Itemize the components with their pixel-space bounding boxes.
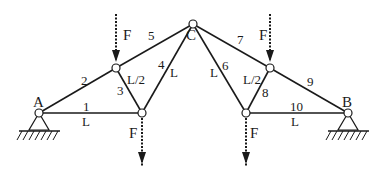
member-2 [39, 68, 116, 113]
label-b: B [342, 94, 352, 110]
node-lr [242, 109, 250, 117]
label-member-4: 4 [158, 57, 165, 72]
label-f-ur: F [259, 27, 267, 43]
label-f-lr: F [250, 125, 258, 141]
label-member-8: 8 [262, 85, 269, 100]
label-member-1: 1 [83, 99, 90, 114]
truss-diagram: A B C F F F F 1 2 3 4 5 6 7 8 9 10 L L/2… [0, 0, 385, 176]
label-member-5: 5 [148, 28, 155, 43]
load-ll [138, 118, 146, 166]
load-lr [242, 118, 250, 166]
node-ur [266, 64, 274, 72]
label-member-2: 2 [81, 73, 88, 88]
label-length-6: L [210, 65, 218, 80]
node-a [35, 109, 43, 117]
label-length-4: L [170, 65, 178, 80]
node-ul [112, 64, 120, 72]
label-length-10: L [291, 114, 299, 129]
node-b [344, 109, 352, 117]
label-length-1: L [82, 114, 90, 129]
label-member-6: 6 [222, 58, 229, 73]
label-member-10: 10 [290, 99, 303, 114]
label-f-ul: F [123, 27, 131, 43]
label-a: A [33, 94, 44, 110]
label-member-3: 3 [117, 83, 124, 98]
label-length-3: L/2 [127, 72, 145, 87]
load-ul [112, 14, 120, 62]
label-length-8: L/2 [243, 72, 261, 87]
label-f-ll: F [129, 125, 137, 141]
label-member-9: 9 [307, 74, 314, 89]
node-ll [138, 109, 146, 117]
label-c: C [186, 27, 196, 43]
label-member-7: 7 [237, 32, 244, 47]
